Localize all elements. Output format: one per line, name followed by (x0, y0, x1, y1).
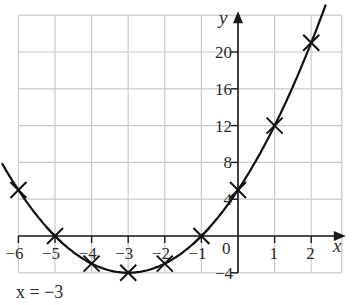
y-tick-label: 20 (215, 43, 232, 62)
x-tick-label: −3 (115, 244, 133, 263)
origin-label: 0 (222, 239, 231, 258)
y-tick-label: 12 (215, 117, 232, 136)
grid-lines (18, 15, 341, 273)
x-tick-label: 1 (270, 244, 279, 263)
symmetry-annotation: x = −3 (16, 282, 63, 302)
x-tick-label: −6 (5, 244, 23, 263)
quadratic-graph: −6−5−4−3−2−112−448121620 x y 0 x = −3 (0, 0, 353, 305)
x-tick-label: 2 (306, 244, 315, 263)
x-tick-label: −5 (42, 244, 60, 263)
y-axis-arrow-icon (233, 11, 243, 23)
x-axis-label: x (332, 235, 342, 256)
y-axis-label: y (217, 7, 228, 28)
y-tick-label: −4 (215, 264, 234, 283)
y-tick-label: 8 (224, 153, 233, 172)
axes (18, 11, 345, 273)
y-tick-label: 16 (215, 80, 232, 99)
